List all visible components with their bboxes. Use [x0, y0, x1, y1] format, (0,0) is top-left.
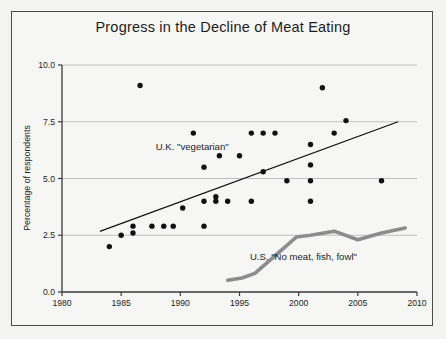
chart-annotations: U.K. "vegetarian"U.S. "No meat, fish, fo… [156, 141, 357, 262]
annotation-label: U.K. "vegetarian" [156, 141, 229, 152]
data-point [201, 223, 206, 228]
data-point [284, 178, 289, 183]
y-tick-label: 7.5 [43, 117, 55, 127]
data-point [343, 118, 348, 123]
data-point [130, 230, 135, 235]
data-point [320, 85, 325, 90]
data-point [308, 142, 313, 147]
y-tick-label: 5.0 [43, 174, 55, 184]
data-point [171, 223, 176, 228]
x-tick-label: 2000 [289, 298, 308, 308]
y-tick-label: 0.0 [43, 287, 55, 297]
data-point [201, 199, 206, 204]
x-tick-label: 1980 [52, 298, 71, 308]
data-point [191, 130, 196, 135]
uk-trendline [100, 122, 398, 232]
data-point [161, 223, 166, 228]
x-tick-label: 2010 [407, 298, 426, 308]
data-point [149, 223, 154, 228]
x-axis-ticks: 1980198519901995200020052010 [52, 292, 426, 308]
uk-vegetarian-trendline [100, 122, 398, 232]
data-point [107, 244, 112, 249]
data-point [379, 178, 384, 183]
data-point [249, 130, 254, 135]
data-point [331, 130, 336, 135]
x-tick-label: 1985 [112, 298, 131, 308]
data-point [130, 223, 135, 228]
chart-figure: Progress in the Decline of Meat Eating 0… [0, 0, 446, 339]
data-point [137, 83, 142, 88]
data-point [201, 164, 206, 169]
y-axis-title: Percentage of respondents [22, 125, 32, 231]
y-tick-label: 10.0 [38, 60, 55, 70]
data-point [217, 153, 222, 158]
data-point [213, 199, 218, 204]
annotation-label: U.S. "No meat, fish, fowl" [250, 251, 357, 262]
y-tick-label: 2.5 [43, 230, 55, 240]
gridlines [62, 65, 417, 235]
uk-vegetarian-points [107, 83, 385, 250]
x-tick-label: 2005 [348, 298, 367, 308]
data-point [272, 130, 277, 135]
data-point [118, 233, 123, 238]
data-point [180, 205, 185, 210]
data-point [308, 199, 313, 204]
plot-area: 0.02.55.07.510.0 19801985199019952000200… [0, 0, 446, 339]
data-point [308, 162, 313, 167]
data-point [308, 178, 313, 183]
data-point [260, 130, 265, 135]
data-point [260, 169, 265, 174]
y-axis-ticks: 0.02.55.07.510.0 [38, 60, 62, 297]
x-tick-label: 1995 [230, 298, 249, 308]
data-point [225, 199, 230, 204]
data-point [249, 199, 254, 204]
data-point [237, 153, 242, 158]
x-tick-label: 1990 [171, 298, 190, 308]
